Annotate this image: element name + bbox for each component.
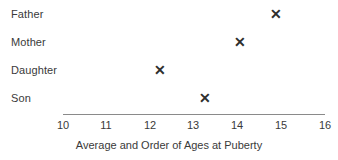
x-tick-label-11: 11 [100, 120, 111, 131]
x-axis-line [63, 114, 325, 115]
category-label-father: Father [11, 9, 43, 20]
data-point-father: ✕ [270, 7, 282, 21]
data-point-mother: ✕ [234, 35, 246, 49]
x-tick-label-15: 15 [275, 120, 287, 131]
x-axis-title: Average and Order of Ages at Puberty [0, 139, 338, 151]
data-point-son: ✕ [199, 91, 211, 105]
category-label-daughter: Daughter [11, 65, 57, 76]
data-point-daughter: ✕ [154, 63, 166, 77]
x-tick-label-10: 10 [57, 120, 69, 131]
x-tick-label-13: 13 [187, 120, 199, 131]
chart-container: Father Mother Daughter Son ✕ ✕ ✕ ✕ 10 11… [0, 0, 338, 160]
x-tick-label-16: 16 [319, 120, 331, 131]
category-label-son: Son [11, 93, 31, 104]
x-tick-label-12: 12 [144, 120, 156, 131]
x-tick-label-14: 14 [231, 120, 243, 131]
plot-area: Father Mother Daughter Son ✕ ✕ ✕ ✕ 10 11… [0, 0, 338, 160]
category-label-mother: Mother [11, 37, 46, 48]
